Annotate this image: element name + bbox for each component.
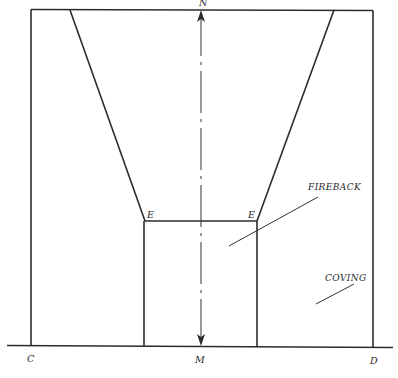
label-n: N bbox=[198, 0, 208, 8]
ground-line bbox=[7, 346, 393, 348]
left-coving-edge bbox=[70, 10, 145, 221]
label-c: C bbox=[27, 353, 35, 364]
label-coving: COVING bbox=[325, 273, 367, 283]
label-m: M bbox=[194, 354, 205, 365]
label-fireback: FIREBACK bbox=[307, 182, 362, 192]
label-d: D bbox=[369, 355, 378, 366]
diagram-svg: N E E FIREBACK COVING C M D bbox=[0, 0, 398, 378]
coving-leader-line bbox=[316, 284, 354, 304]
outer-top-edge bbox=[31, 10, 373, 11]
label-e-right: E bbox=[247, 209, 255, 220]
fireplace-diagram: N E E FIREBACK COVING C M D bbox=[0, 0, 398, 378]
label-e-left: E bbox=[146, 209, 154, 220]
